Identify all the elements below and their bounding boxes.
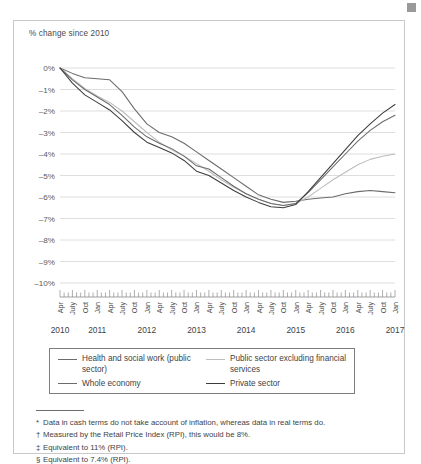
y-axis-tick-label: –2% [39, 107, 55, 116]
footnote-text: Measured by the Retail Price Index (RPI)… [43, 429, 386, 441]
legend-swatch-health-and-social-work [58, 359, 77, 360]
y-axis-tick-label: –5% [39, 172, 55, 181]
x-axis-tick-label: Jan [242, 302, 251, 314]
x-axis-tick-label: Oct [230, 302, 239, 313]
x-axis-tick-label: Jan [143, 302, 152, 314]
y-axis-tick-label: –4% [39, 150, 55, 159]
footnote-marker: * [36, 417, 43, 429]
x-axis-tick-label: Apr [304, 301, 313, 313]
y-axis-tick-label: –7% [39, 215, 55, 224]
legend-swatch-private-sector [206, 383, 225, 384]
x-axis-tick-label: July [118, 302, 127, 315]
footnote-item: * Data in cash terms do not take account… [36, 417, 386, 429]
corner-artifact-mark [407, 3, 416, 12]
y-axis-tick-label: –3% [39, 129, 55, 138]
legend-label-health-and-social-work: Health and social work (public sector) [82, 354, 200, 375]
x-axis-tick-label: Oct [130, 302, 139, 313]
legend-label-private-sector: Private sector [230, 379, 280, 390]
x-axis-year-label: 2012 [138, 325, 157, 335]
y-axis-title: % change since 2010 [29, 29, 109, 38]
legend-swatch-whole-economy [58, 383, 77, 384]
figure-card: % change since 2010 0%–1%–2%–3%–4%–5%–6%… [13, 20, 405, 454]
x-axis-tick-label: July [168, 302, 177, 315]
chart-series-line [60, 68, 395, 206]
x-axis-tick-label: July [267, 302, 276, 315]
footnote-marker: † [36, 429, 43, 441]
footnote-list: * Data in cash terms do not take account… [36, 417, 386, 464]
x-axis-tick-label: Jan [391, 302, 400, 314]
y-axis-tick-label: 0% [43, 64, 55, 73]
y-axis-tick-label: –8% [39, 236, 55, 245]
footnote-marker: § [36, 454, 43, 464]
x-axis-year-label: 2015 [286, 325, 305, 335]
footnote-text: Data in cash terms do not take account o… [43, 417, 386, 429]
chart-series-line [60, 68, 395, 206]
footnote-text: Equivalent to 7.4% (RPI). [43, 454, 386, 464]
x-axis-tick-label: Jan [192, 302, 201, 314]
footnote-item: † Measured by the Retail Price Index (RP… [36, 429, 386, 441]
x-axis-tick-label: Oct [329, 302, 338, 313]
x-axis-tick-label: July [68, 302, 77, 315]
x-axis-year-label: 2014 [237, 325, 256, 335]
x-axis-tick-label: Jan [341, 302, 350, 314]
legend-item-public-sector-excluding-financial-services: Public sector excluding financial servic… [206, 354, 348, 379]
chart-plot-area: 0%–1%–2%–3%–4%–5%–6%–7%–8%–9%–10%AprJuly… [14, 45, 406, 335]
x-axis-tick-label: Oct [180, 302, 189, 313]
chart-legend: Health and social work (public sector) P… [49, 348, 355, 394]
x-axis-tick-label: Apr [255, 301, 264, 313]
x-axis-tick-label: July [217, 302, 226, 315]
legend-item-whole-economy: Whole economy [58, 379, 200, 390]
x-axis-tick-label: Apr [56, 301, 65, 313]
y-axis-tick-label: –10% [34, 279, 55, 288]
x-axis-year-label: 2011 [88, 325, 106, 335]
y-axis-tick-label: –1% [39, 86, 55, 95]
x-axis-tick-label: Jan [93, 302, 102, 314]
legend-label-public-sector-excluding-financial-services: Public sector excluding financial servic… [230, 354, 348, 375]
y-axis-tick-label: –9% [39, 258, 55, 267]
x-axis-tick-label: Oct [81, 302, 90, 313]
x-axis-tick-label: July [366, 302, 375, 315]
x-axis-tick-label: Apr [354, 301, 363, 313]
x-axis-tick-label: Apr [205, 301, 214, 313]
x-axis-tick-label: Jan [292, 302, 301, 314]
footnote-item: § Equivalent to 7.4% (RPI). [36, 454, 386, 464]
footnote-divider [36, 410, 84, 411]
legend-swatch-public-sector-excluding-financial-services [206, 359, 225, 360]
footnote-item: ‡ Equivalent to 11% (RPI). [36, 442, 386, 454]
x-axis-year-label: 2017 [386, 325, 405, 335]
footnote-marker: ‡ [36, 442, 43, 454]
legend-item-private-sector: Private sector [206, 379, 348, 390]
line-chart-svg: 0%–1%–2%–3%–4%–5%–6%–7%–8%–9%–10%AprJuly… [14, 45, 406, 335]
footnote-text: Equivalent to 11% (RPI). [43, 442, 386, 454]
chart-series-line [60, 68, 395, 208]
x-axis-tick-label: Oct [379, 302, 388, 313]
x-axis-year-label: 2016 [336, 325, 355, 335]
x-axis-tick-label: Apr [155, 301, 164, 313]
legend-label-whole-economy: Whole economy [82, 379, 141, 390]
x-axis-tick-label: Apr [106, 301, 115, 313]
legend-item-health-and-social-work: Health and social work (public sector) [58, 354, 200, 379]
x-axis-tick-label: Oct [279, 302, 288, 313]
y-axis-tick-label: –6% [39, 193, 55, 202]
x-axis-year-label: 2013 [187, 325, 206, 335]
x-axis-year-label: 2010 [51, 325, 70, 335]
x-axis-tick-label: July [317, 302, 326, 315]
